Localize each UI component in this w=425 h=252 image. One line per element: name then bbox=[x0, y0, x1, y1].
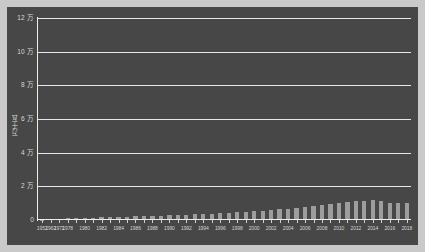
x-tick-label: 2004 bbox=[283, 226, 294, 231]
plot-area bbox=[38, 18, 411, 220]
x-tick-label: 2012 bbox=[351, 226, 362, 231]
y-tick-label: 4 万 bbox=[21, 149, 34, 156]
chart-panel: 万千瓦 02 万4 万6 万8 万10 万12 万 19521962197219… bbox=[7, 7, 418, 245]
bar bbox=[405, 203, 409, 220]
x-tick-label: 2008 bbox=[317, 226, 328, 231]
bar bbox=[371, 200, 375, 220]
y-axis-tick-labels: 02 万4 万6 万8 万10 万12 万 bbox=[7, 18, 34, 220]
x-tick-label: 1986 bbox=[130, 226, 141, 231]
x-tick-label: 2006 bbox=[300, 226, 311, 231]
x-tick-label: 1998 bbox=[232, 226, 243, 231]
x-tick-label: 2018 bbox=[401, 226, 412, 231]
bar bbox=[345, 202, 349, 220]
gridline bbox=[38, 85, 411, 86]
bar bbox=[354, 201, 358, 220]
x-tick-label: 1996 bbox=[215, 226, 226, 231]
y-tick-label: 2 万 bbox=[21, 183, 34, 190]
y-tick-label: 10 万 bbox=[17, 48, 34, 55]
chart-frame: 万千瓦 02 万4 万6 万8 万10 万12 万 19521962197219… bbox=[0, 0, 425, 252]
gridline bbox=[38, 186, 411, 187]
x-tick-label: 1980 bbox=[79, 226, 90, 231]
x-tick-label: 1978 bbox=[62, 226, 73, 231]
x-axis-tick-labels: 1952196219721978198019821984198619881990… bbox=[38, 222, 411, 234]
bar bbox=[311, 206, 315, 220]
x-tick-label: 1982 bbox=[96, 226, 107, 231]
y-tick-label: 8 万 bbox=[21, 82, 34, 89]
gridline bbox=[38, 153, 411, 154]
bar bbox=[362, 201, 366, 220]
x-tick-label: 2016 bbox=[384, 226, 395, 231]
bar bbox=[328, 204, 332, 220]
x-tick-label: 2002 bbox=[266, 226, 277, 231]
x-tick-label: 2010 bbox=[334, 226, 345, 231]
x-tick-label: 1988 bbox=[147, 226, 158, 231]
x-tick-label: 1984 bbox=[113, 226, 124, 231]
y-tick-label: 0 bbox=[30, 217, 34, 224]
gridline bbox=[38, 52, 411, 53]
y-tick-label: 12 万 bbox=[17, 15, 34, 22]
y-tick-label: 6 万 bbox=[21, 116, 34, 123]
bar bbox=[379, 201, 383, 220]
x-tick-label: 2014 bbox=[367, 226, 378, 231]
x-tick-label: 1990 bbox=[164, 226, 175, 231]
gridline bbox=[38, 119, 411, 120]
x-tick-label: 1994 bbox=[198, 226, 209, 231]
bar bbox=[337, 203, 341, 220]
x-tick-label: 2000 bbox=[249, 226, 260, 231]
gridline bbox=[38, 18, 411, 19]
bar bbox=[388, 203, 392, 220]
x-tick-label: 1992 bbox=[181, 226, 192, 231]
bar bbox=[320, 205, 324, 220]
bar bbox=[396, 203, 400, 220]
